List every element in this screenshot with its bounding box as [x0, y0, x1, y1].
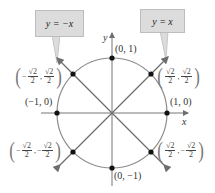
q2-y-den: 2 [47, 77, 51, 85]
q4-y-den: 2 [189, 151, 193, 159]
q2-x-sign: − [22, 72, 27, 81]
callout-y-equals-neg-x: y = −x [35, 10, 84, 37]
callout-pos-text: y = x [152, 16, 173, 27]
q3-x-den: 2 [25, 151, 29, 159]
label-left: (−1, 0) [25, 97, 52, 107]
label-q1: ( √22 , √22 ) [156, 64, 201, 88]
q3-y-sign: − [37, 146, 42, 155]
q3-y-den: 2 [46, 151, 50, 159]
callout-tail-pos [160, 31, 168, 60]
q1-x-den: 2 [168, 77, 172, 85]
point-q1 [148, 71, 153, 76]
x-axis-label: x [182, 117, 186, 127]
q4-y-sign: − [180, 146, 185, 155]
point-right [164, 110, 169, 115]
q3-x-sign: − [16, 146, 21, 155]
q2-x-den: 2 [31, 77, 35, 85]
y-axis-label: y [103, 33, 107, 43]
callout-y-equals-x: y = x [140, 9, 185, 33]
label-q3: ( − √22 , − √22 ) [8, 138, 62, 162]
label-bottom: (0, −1) [114, 171, 141, 181]
label-top: (0, 1) [115, 44, 137, 54]
q4-x-den: 2 [168, 151, 172, 159]
callout-tail-neg [52, 35, 60, 63]
point-q4 [148, 149, 153, 154]
label-right: (1, 0) [170, 97, 192, 107]
label-q2: ( − √22 , √22 ) [14, 64, 63, 88]
point-q3 [70, 149, 75, 154]
point-left [54, 110, 59, 115]
callout-neg-text: y = −x [46, 18, 73, 29]
point-top [109, 55, 114, 60]
q1-y-den: 2 [185, 77, 189, 85]
point-q2 [70, 71, 75, 76]
label-q4: ( √22 , − √22 ) [156, 138, 205, 162]
